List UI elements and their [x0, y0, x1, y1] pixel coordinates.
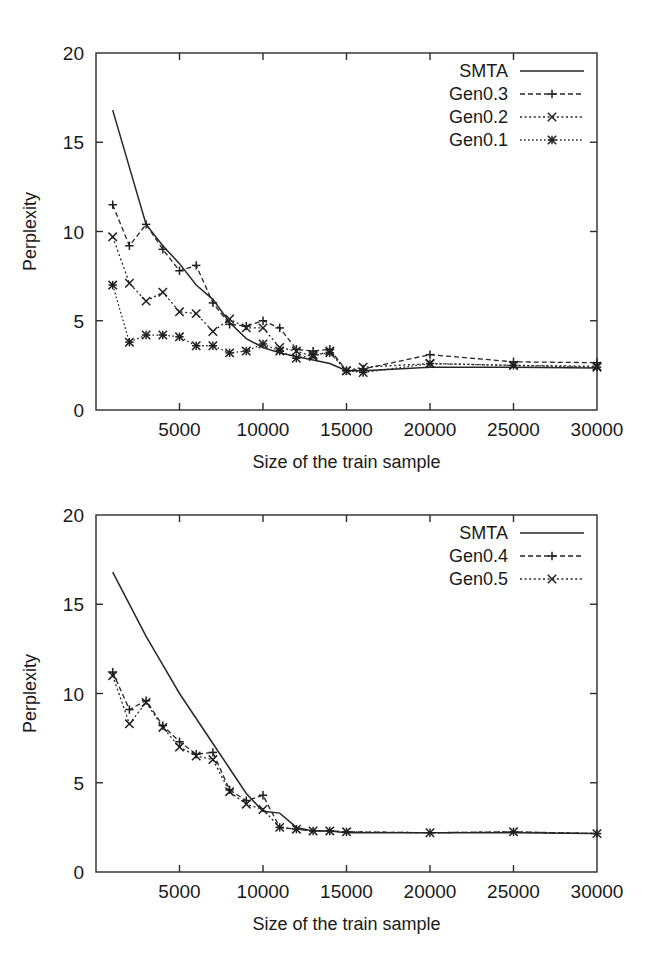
series-line-gen0-1 [113, 285, 597, 372]
x-axis-tick-label: 25000 [487, 419, 540, 440]
data-point-marker [175, 333, 183, 341]
legend-label-smta: SMTA [459, 523, 508, 543]
y-axis-tick-label: 10 [63, 222, 84, 243]
data-point-marker [125, 720, 133, 728]
series-line-gen0-3 [113, 205, 597, 371]
y-axis-title: Perplexity [20, 654, 40, 733]
y-axis-tick-label: 5 [73, 311, 84, 332]
plot-frame [96, 515, 597, 872]
data-point-marker [426, 350, 434, 358]
data-point-marker [192, 309, 200, 317]
data-point-marker [142, 331, 150, 339]
y-axis-tick-label: 20 [63, 505, 84, 526]
x-axis-tick-label: 30000 [571, 881, 624, 902]
data-point-marker [309, 350, 317, 358]
data-point-marker [426, 359, 434, 367]
y-axis-tick-label: 15 [63, 594, 84, 615]
data-point-marker [259, 340, 267, 348]
series-line-gen0-4 [113, 672, 597, 834]
data-point-marker [326, 349, 334, 357]
data-point-marker [509, 361, 517, 369]
x-axis-tick-label: 20000 [404, 881, 457, 902]
data-point-marker [359, 368, 367, 376]
data-point-marker [192, 261, 200, 269]
x-axis-tick-label: 15000 [320, 419, 373, 440]
data-point-marker [548, 136, 556, 144]
x-axis-tick-label: 10000 [237, 419, 290, 440]
data-point-marker [209, 327, 217, 335]
figure-page: 5000100001500020000250003000005101520Siz… [0, 0, 653, 972]
data-point-marker [259, 791, 267, 799]
legend-label-gen0-5: Gen0.5 [449, 569, 508, 589]
y-axis-tick-label: 15 [63, 132, 84, 153]
x-axis-tick-label: 5000 [158, 419, 200, 440]
x-axis-title: Size of the train sample [252, 914, 440, 934]
x-axis-title: Size of the train sample [252, 452, 440, 472]
plot-area-bottom: 5000100001500020000250003000005101520Siz… [0, 476, 653, 946]
data-point-marker [209, 342, 217, 350]
y-axis-tick-label: 10 [63, 684, 84, 705]
series-line-gen0-5 [113, 676, 597, 834]
data-point-marker [109, 233, 117, 241]
y-axis-title: Perplexity [20, 192, 40, 271]
x-axis-tick-label: 20000 [404, 419, 457, 440]
data-point-marker [593, 363, 601, 371]
y-axis-tick-label: 0 [73, 400, 84, 421]
data-point-marker [159, 331, 167, 339]
x-axis-tick-label: 25000 [487, 881, 540, 902]
data-point-marker [548, 90, 556, 98]
data-point-marker [259, 805, 267, 813]
plot-frame [96, 53, 597, 410]
x-axis-tick-label: 10000 [237, 881, 290, 902]
plot-area-top: 5000100001500020000250003000005101520Siz… [0, 14, 653, 484]
data-point-marker [109, 201, 117, 209]
x-axis-tick-label: 5000 [158, 881, 200, 902]
data-point-marker [209, 299, 217, 307]
data-point-marker [159, 288, 167, 296]
y-axis-tick-label: 20 [63, 43, 84, 64]
data-point-marker [125, 705, 133, 713]
data-point-marker [142, 297, 150, 305]
legend-label-smta: SMTA [459, 61, 508, 81]
legend-label-gen0-1: Gen0.1 [449, 130, 508, 150]
data-point-marker [209, 748, 217, 756]
y-axis-tick-label: 5 [73, 773, 84, 794]
x-axis-tick-label: 30000 [571, 419, 624, 440]
data-point-marker [109, 281, 117, 289]
chart-panel-bottom: 5000100001500020000250003000005101520Siz… [0, 476, 653, 946]
data-point-marker [242, 322, 250, 330]
data-point-marker [125, 279, 133, 287]
legend-label-gen0-2: Gen0.2 [449, 107, 508, 127]
data-point-marker [548, 552, 556, 560]
data-point-marker [192, 342, 200, 350]
data-point-marker [259, 317, 267, 325]
legend-label-gen0-3: Gen0.3 [449, 84, 508, 104]
data-point-marker [276, 324, 284, 332]
chart-panel-top: 5000100001500020000250003000005101520Siz… [0, 14, 653, 484]
x-axis-tick-label: 15000 [320, 881, 373, 902]
legend-label-gen0-4: Gen0.4 [449, 546, 508, 566]
data-point-marker [125, 338, 133, 346]
data-point-marker [276, 347, 284, 355]
series-line-gen0-2 [113, 237, 597, 371]
data-point-marker [292, 354, 300, 362]
data-point-marker [242, 347, 250, 355]
y-axis-tick-label: 0 [73, 862, 84, 883]
data-point-marker [342, 367, 350, 375]
data-point-marker [225, 349, 233, 357]
data-point-marker [225, 786, 233, 794]
series-line-smta [113, 110, 597, 371]
series-line-smta [113, 572, 597, 834]
